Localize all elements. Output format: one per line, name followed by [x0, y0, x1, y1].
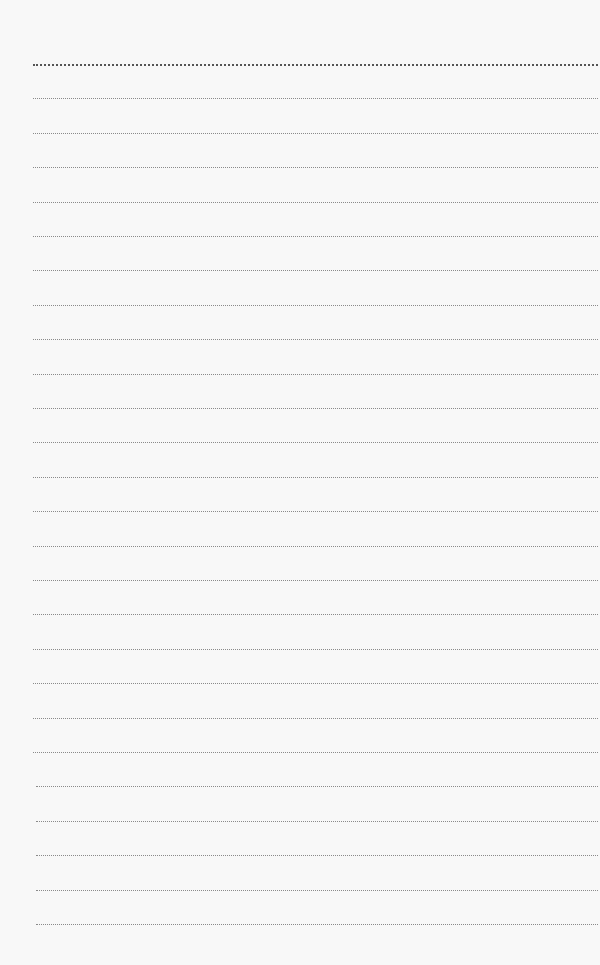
ruled-line [33, 305, 598, 306]
ruled-line [33, 374, 598, 375]
ruled-line [33, 511, 598, 512]
ruled-line [33, 614, 598, 615]
ruled-line [33, 546, 598, 547]
ruled-line [36, 855, 598, 856]
ruled-line [33, 752, 598, 753]
ruled-line [33, 718, 598, 719]
ruled-line [33, 477, 598, 478]
ruled-line [33, 408, 598, 409]
ruled-line [33, 683, 598, 684]
ruled-line [33, 442, 598, 443]
ruled-line [36, 821, 598, 822]
ruled-line [33, 98, 598, 99]
ruled-line [36, 890, 598, 891]
ruled-line [36, 786, 598, 787]
lined-paper-page [0, 0, 600, 965]
ruled-line [33, 580, 598, 581]
ruled-line [33, 236, 598, 237]
ruled-line [33, 167, 598, 168]
ruled-line [36, 924, 598, 925]
ruled-line [33, 64, 598, 66]
ruled-line [33, 202, 598, 203]
ruled-line [33, 649, 598, 650]
ruled-line [33, 133, 598, 134]
ruled-line [33, 270, 598, 271]
ruled-line [33, 339, 598, 340]
